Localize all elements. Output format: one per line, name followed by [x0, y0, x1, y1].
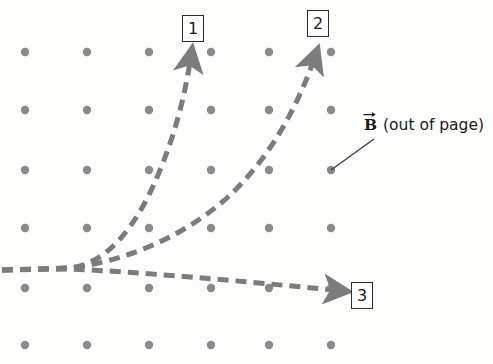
field-dot: [327, 48, 335, 56]
field-dot: [327, 224, 335, 232]
field-dot: [21, 284, 29, 292]
trajectory-paths: [2, 62, 334, 290]
field-dot: [207, 106, 215, 114]
field-annotation-text: (out of page): [383, 116, 484, 134]
physics-figure: 1 2 3 B (out of page): [0, 0, 493, 364]
field-dot-grid: [21, 48, 335, 349]
field-dot: [265, 341, 273, 349]
trajectory-label-1: 1: [182, 15, 204, 42]
field-dot: [83, 341, 91, 349]
field-dot: [83, 284, 91, 292]
magnetic-field-label: B (out of page): [364, 117, 484, 134]
field-dot: [21, 166, 29, 174]
field-dot: [21, 224, 29, 232]
field-dot: [207, 166, 215, 174]
field-dot: [265, 48, 273, 56]
field-dot: [145, 284, 153, 292]
field-dot: [145, 106, 153, 114]
field-dot: [21, 106, 29, 114]
field-label-leader-line: [331, 139, 374, 170]
field-dot: [265, 106, 273, 114]
trajectory-label-3: 3: [351, 282, 373, 309]
trajectory-label-2: 2: [307, 10, 329, 37]
field-dot: [145, 48, 153, 56]
field-dot: [83, 166, 91, 174]
field-dot: [265, 166, 273, 174]
field-dot: [21, 48, 29, 56]
field-dot: [265, 224, 273, 232]
trajectory-label-3-text: 3: [357, 288, 367, 304]
trajectory-label-1-text: 1: [188, 21, 198, 37]
field-dot: [83, 48, 91, 56]
trajectory-path-2: [2, 62, 313, 270]
trajectory-path-3: [2, 269, 334, 290]
field-symbol-letter: B: [364, 115, 377, 134]
field-dot: [207, 341, 215, 349]
trajectory-label-2-text: 2: [313, 16, 323, 32]
field-dot: [207, 48, 215, 56]
field-dot: [83, 106, 91, 114]
field-dot: [145, 166, 153, 174]
field-dot: [145, 224, 153, 232]
field-dot: [83, 224, 91, 232]
field-dot: [207, 284, 215, 292]
field-dot: [21, 341, 29, 349]
field-dot: [145, 341, 153, 349]
field-dot: [207, 224, 215, 232]
figure-canvas: [0, 0, 493, 364]
field-dot: [327, 341, 335, 349]
field-dot: [327, 106, 335, 114]
field-vector-symbol: B: [364, 117, 378, 133]
